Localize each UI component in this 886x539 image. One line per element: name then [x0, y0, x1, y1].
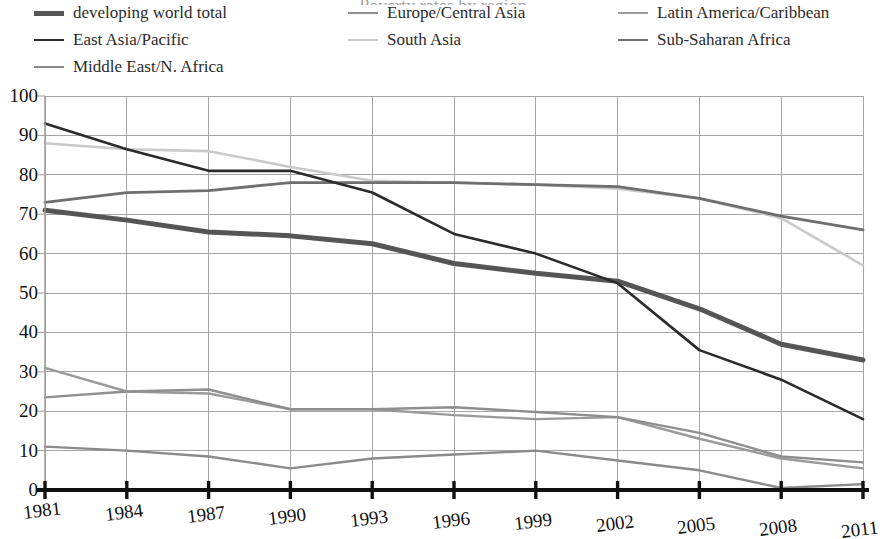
- legend-item-label: Latin America/Caribbean: [657, 4, 829, 22]
- x-axis-tick-label: 1990: [267, 504, 307, 527]
- legend-item[interactable]: Middle East/N. Africa: [34, 58, 224, 76]
- legend-line-swatch-icon: [34, 11, 64, 16]
- legend-item[interactable]: Sub-Saharan Africa: [618, 31, 791, 49]
- x-axis-tick-label: 1996: [431, 508, 471, 531]
- x-axis-tick-label: 2008: [758, 515, 798, 538]
- legend-item-label: East Asia/Pacific: [73, 31, 189, 49]
- legend-item[interactable]: developing world total: [34, 4, 227, 22]
- x-axis-tick-label: 1981: [22, 498, 62, 521]
- legend-item-label: Europe/Central Asia: [387, 4, 525, 22]
- legend-item[interactable]: Latin America/Caribbean: [618, 4, 829, 22]
- legend-line-swatch-icon: [348, 12, 378, 14]
- x-axis-tick-label: 1993: [349, 506, 389, 529]
- chart-legend: Poverty rates by region developing world…: [0, 0, 886, 86]
- x-axis-tick-label: 1987: [186, 502, 226, 525]
- legend-item[interactable]: East Asia/Pacific: [34, 31, 189, 49]
- x-axis-tick-label: 2011: [840, 517, 879, 539]
- x-axis-tick-label: 2002: [595, 512, 635, 535]
- x-axis-tick-label: 1984: [104, 500, 144, 523]
- legend-item[interactable]: South Asia: [348, 31, 461, 49]
- legend-item[interactable]: Europe/Central Asia: [348, 4, 525, 22]
- legend-item-label: Sub-Saharan Africa: [657, 31, 791, 49]
- legend-line-swatch-icon: [34, 39, 64, 42]
- legend-line-swatch-icon: [618, 39, 648, 42]
- legend-item-label: Middle East/N. Africa: [73, 58, 224, 76]
- x-axis-tick-labels: 1981198419871990199319961999200220052008…: [0, 86, 886, 539]
- legend-item-label: developing world total: [73, 4, 227, 22]
- x-axis-tick-label: 2005: [676, 514, 716, 537]
- legend-item-label: South Asia: [387, 31, 461, 49]
- chart-plot-area: 0102030405060708090100 19811984198719901…: [0, 86, 886, 539]
- legend-line-swatch-icon: [34, 66, 64, 68]
- legend-line-swatch-icon: [348, 39, 378, 42]
- legend-line-swatch-icon: [618, 12, 648, 14]
- x-axis-tick-label: 1999: [513, 510, 553, 533]
